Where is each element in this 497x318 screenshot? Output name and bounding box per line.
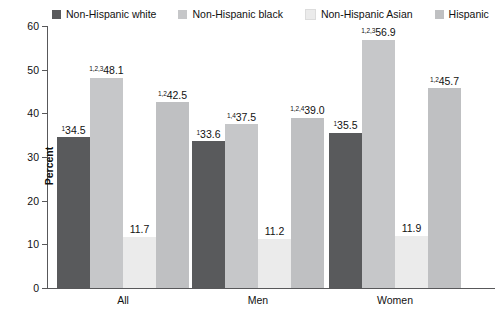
bar-value-number: 39.0: [304, 104, 324, 116]
footnote-superscript: 1,2,4: [290, 105, 304, 112]
bar-group: 134.51,2,348.111.71,242.5All: [57, 26, 189, 288]
y-axis-tick: 50: [42, 70, 47, 71]
bar-chart: Non-Hispanic whiteNon-Hispanic blackNon-…: [0, 0, 497, 318]
bar-value-label: 1,2,439.0: [290, 103, 324, 116]
legend-item-label: Hispanic: [449, 9, 489, 20]
y-axis-tick: 60: [42, 26, 47, 27]
bar[interactable]: 1,2,348.1: [90, 78, 123, 288]
y-axis-tick-label: 10: [27, 238, 39, 250]
x-axis-line: [47, 288, 495, 289]
y-axis-tick-label: 60: [27, 20, 39, 32]
bar[interactable]: 1,2,439.0: [291, 118, 324, 288]
y-axis-tick: 0: [42, 288, 47, 289]
bar[interactable]: 1,2,356.9: [362, 40, 395, 288]
bar-value-number: 37.5: [236, 110, 256, 122]
bar[interactable]: 133.6: [192, 141, 225, 288]
plot-area: Percent 6050403020100 134.51,2,348.111.7…: [47, 26, 495, 288]
footnote-superscript: 1,2: [158, 90, 167, 97]
bar-value-number: 42.5: [167, 88, 187, 100]
bar-value-label: 135.5: [334, 118, 358, 131]
y-axis-tick-label: 20: [27, 195, 39, 207]
y-axis-title: Percent: [43, 147, 55, 186]
y-axis-tick-label: 40: [27, 107, 39, 119]
legend-item-label: Non-Hispanic Asian: [321, 9, 413, 20]
bar-value-label: 1,245.7: [430, 74, 459, 87]
legend-swatch-icon: [435, 10, 444, 19]
x-axis-category-label: Men: [248, 294, 268, 306]
bar-value-label: 133.6: [197, 127, 221, 140]
legend-item[interactable]: Hispanic: [435, 9, 489, 20]
bar-value-label: 1,242.5: [158, 88, 187, 101]
y-axis-tick-label: 0: [33, 282, 39, 294]
bar-value-number: 11.9: [402, 222, 422, 234]
legend-swatch-icon: [52, 10, 61, 19]
bar[interactable]: 11.2: [258, 239, 291, 288]
y-axis-tick-label: 50: [27, 64, 39, 76]
bar[interactable]: 1,437.5: [225, 124, 258, 288]
bar-value-number: 56.9: [375, 26, 395, 38]
bar[interactable]: 135.5: [329, 133, 362, 288]
bar[interactable]: 134.5: [57, 137, 90, 288]
y-axis-tick: 10: [42, 244, 47, 245]
legend-item[interactable]: Non-Hispanic Asian: [305, 9, 413, 20]
y-axis-tick-label: 30: [27, 151, 39, 163]
bar[interactable]: 1,245.7: [428, 88, 461, 288]
legend-item[interactable]: Non-Hispanic black: [178, 9, 282, 20]
bar[interactable]: 11.7: [123, 237, 156, 288]
footnote-superscript: 1,2,3: [89, 65, 103, 72]
bar-value-label: 1,2,348.1: [89, 63, 123, 76]
bar-value-number: 48.1: [103, 64, 123, 76]
bar-value-number: 33.6: [200, 127, 220, 139]
bar-value-number: 34.5: [65, 123, 85, 135]
bar-value-number: 11.2: [265, 225, 285, 237]
bar-value-number: 35.5: [337, 119, 357, 131]
legend-swatch-icon: [178, 10, 187, 19]
bar-value-label: 11.2: [265, 226, 285, 237]
bar-value-number: 11.7: [130, 223, 150, 235]
bar-group: 133.61,437.511.21,2,439.0Men: [192, 26, 324, 288]
footnote-superscript: 1,2,3: [361, 27, 375, 34]
legend-item-label: Non-Hispanic white: [66, 9, 156, 20]
legend-item[interactable]: Non-Hispanic white: [52, 9, 156, 20]
y-axis-tick: 40: [42, 113, 47, 114]
x-axis-category-label: Women: [377, 294, 413, 306]
footnote-superscript: 1,4: [227, 112, 236, 119]
bar[interactable]: 1,242.5: [156, 102, 189, 288]
bar-value-label: 11.7: [130, 224, 150, 235]
x-axis-category-label: All: [117, 294, 129, 306]
legend-item-label: Non-Hispanic black: [192, 9, 282, 20]
y-axis-tick: 30: [42, 157, 47, 158]
bar-value-label: 1,2,356.9: [361, 25, 395, 38]
legend-swatch-icon: [305, 9, 316, 20]
bar-value-label: 134.5: [62, 123, 86, 136]
bar-value-label: 11.9: [402, 223, 422, 234]
bar-value-label: 1,437.5: [227, 110, 256, 123]
bar-group: 135.51,2,356.911.91,245.7Women: [329, 26, 461, 288]
footnote-superscript: 1,2: [430, 76, 439, 83]
bar-value-number: 45.7: [439, 74, 459, 86]
y-axis-tick: 20: [42, 201, 47, 202]
chart-legend: Non-Hispanic whiteNon-Hispanic blackNon-…: [52, 6, 492, 22]
bar[interactable]: 11.9: [395, 236, 428, 288]
